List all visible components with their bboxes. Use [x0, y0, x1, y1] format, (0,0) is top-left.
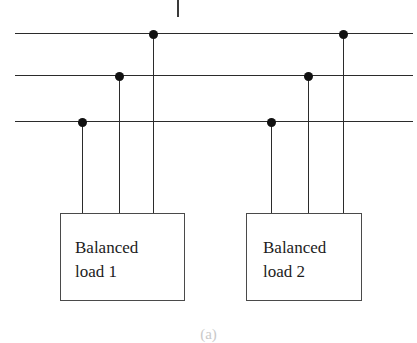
balanced-load-2-label: Balanced load 2 — [263, 236, 326, 284]
tap-1-phase-c-junction-dot — [78, 118, 87, 127]
top-connector-stub — [177, 0, 179, 17]
figure-caption: (a) — [0, 326, 417, 343]
tap-2-phase-c-junction-dot — [267, 118, 276, 127]
tap-1-phase-b-drop-line — [119, 75, 120, 213]
tap-2-phase-a-junction-dot — [339, 30, 348, 39]
phase-line-middle — [15, 75, 413, 76]
phase-line-top — [15, 33, 413, 34]
tap-2-phase-b-junction-dot — [304, 72, 313, 81]
balanced-load-1-label: Balanced load 1 — [75, 236, 138, 284]
tap-1-phase-c-drop-line — [82, 121, 83, 213]
tap-1-phase-b-junction-dot — [115, 72, 124, 81]
tap-2-phase-a-drop-line — [343, 33, 344, 213]
tap-1-phase-a-junction-dot — [149, 30, 158, 39]
tap-2-phase-b-drop-line — [308, 75, 309, 213]
three-phase-balanced-load-diagram: Balanced load 1Balanced load 2(a) — [0, 0, 417, 343]
tap-2-phase-c-drop-line — [271, 121, 272, 213]
phase-line-bottom — [15, 121, 413, 122]
tap-1-phase-a-drop-line — [153, 33, 154, 213]
